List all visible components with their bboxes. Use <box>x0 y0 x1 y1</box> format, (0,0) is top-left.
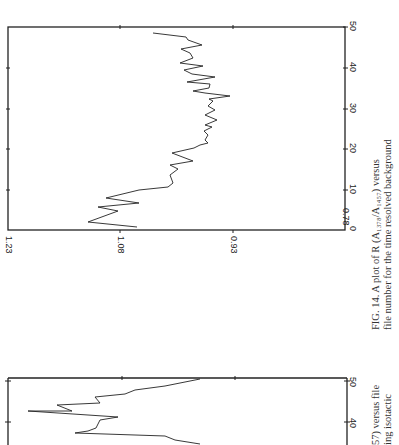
lower-x-tick-40: 40 <box>348 418 358 428</box>
lower-figure-caption: 57) versus file ing isotactic <box>370 385 394 445</box>
lower-x-tick-50: 50 <box>348 377 358 387</box>
lower-caption-line-1: 57) versus file <box>370 385 382 445</box>
lower-caption-line-2: ing isotactic <box>382 385 394 445</box>
lower-chart: 40 50 57) versus file ing isotactic <box>0 0 399 445</box>
lower-data-line <box>28 379 200 444</box>
lower-chart-svg <box>0 0 399 445</box>
